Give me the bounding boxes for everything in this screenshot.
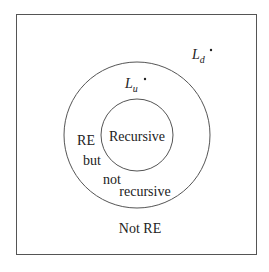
svg-text:Lu: Lu <box>124 76 138 94</box>
point-l-u-subscript: u <box>133 83 138 94</box>
point-l-d-subscript: d <box>200 54 206 65</box>
point-l-d-dot <box>210 49 212 51</box>
point-l-u-dot <box>144 78 146 80</box>
not-re-label: Not RE <box>119 221 161 236</box>
language-classes-venn-diagram: Recursive RE but not recursive Not RE Lu… <box>0 0 269 272</box>
svg-text:Ld: Ld <box>191 47 206 65</box>
point-l-d: Ld <box>191 47 212 65</box>
re-but-not-recursive-label-line-3: not <box>103 172 121 187</box>
re-but-not-recursive-label-line-1: RE <box>77 133 95 148</box>
point-l-u: Lu <box>124 76 146 94</box>
re-but-not-recursive-label-line-2: but <box>83 153 101 168</box>
recursive-label: Recursive <box>109 129 165 144</box>
point-l-d-symbol: L <box>191 47 200 62</box>
point-l-u-symbol: L <box>124 76 133 91</box>
re-but-not-recursive-label-line-4: recursive <box>119 184 170 199</box>
